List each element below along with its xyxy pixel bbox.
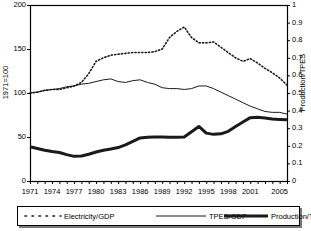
chart-legend: Electricity/GDPTPES/GDPProduction/TPES [17,206,300,226]
legend-swatch-thin-solid [155,211,207,221]
series-line-production-tpes [30,117,287,156]
series-line-tpes-gdp [30,79,287,114]
legend-item[interactable]: Production/TPES [223,207,311,225]
legend-label: Electricity/GDP [64,212,114,221]
series-line-electricity-gdp [30,27,287,93]
legend-item[interactable]: Electricity/GDP [24,207,114,225]
chart-container: 1971=100 Production/TPES 05010015020000.… [0,0,311,231]
legend-swatch-dotted [24,211,62,221]
legend-swatch-thick-solid [223,211,269,221]
plot-area [0,0,311,231]
legend-label: Production/TPES [271,212,311,221]
